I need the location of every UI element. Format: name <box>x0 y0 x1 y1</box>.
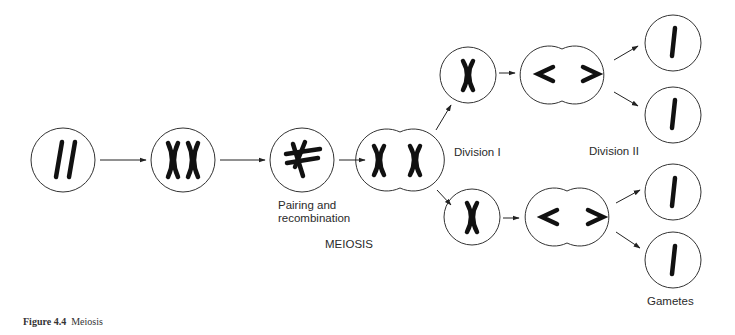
meiosis-diagram <box>0 0 735 335</box>
meiosis-label: MEIOSIS <box>325 238 373 251</box>
division1-lower-chromosome-icon <box>467 203 477 232</box>
arrow-10 <box>616 190 640 203</box>
division1-label: Division I <box>454 146 501 159</box>
arrow-11 <box>616 232 640 248</box>
division2-label: Division II <box>589 145 639 158</box>
dividing-cell-1 <box>356 129 445 191</box>
figure-number: Figure 4.4 <box>23 316 66 327</box>
gamete-chromosome-icon <box>672 28 675 56</box>
gamete-chromosome-icon <box>672 246 675 274</box>
gamete-chromosome-icon <box>672 178 675 206</box>
division2-lower-chromosomes-icon <box>542 210 603 224</box>
recombination-icon <box>286 142 320 176</box>
gamete-chromosome-icon <box>672 100 675 128</box>
replicated-cell <box>151 128 215 192</box>
chromosome-pair-icon <box>56 142 75 177</box>
replicated-chromosomes-icon <box>168 143 198 177</box>
arrow-5 <box>437 190 451 205</box>
diploid-cell <box>31 128 95 192</box>
arrow-8 <box>614 46 638 60</box>
pairing-label: Pairing and recombination <box>278 199 350 225</box>
division2-upper-chromosomes-icon <box>538 67 598 81</box>
arrow-9 <box>614 92 638 106</box>
gametes-label: Gametes <box>647 295 694 308</box>
division1-upper-chromosome-icon <box>463 61 473 90</box>
arrow-4 <box>436 105 451 130</box>
dividing-chromosomes-icon <box>374 146 420 175</box>
figure-caption: Figure 4.4 Meiosis <box>23 316 103 327</box>
figure-title: Meiosis <box>71 316 103 327</box>
